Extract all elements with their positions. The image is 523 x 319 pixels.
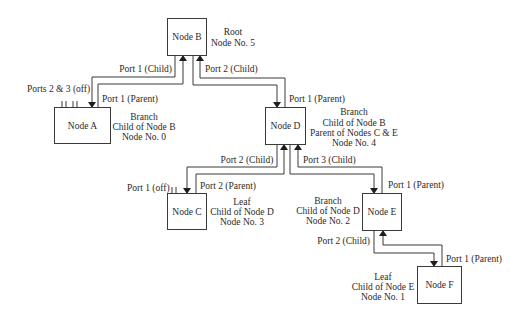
node-a-info: Branch Child of Node B Node No. 0	[112, 112, 175, 142]
node-d[interactable]: Node D	[266, 108, 306, 145]
connection-b-d	[193, 55, 285, 108]
node-c-label: Node C	[172, 207, 201, 217]
svg-text:Leaf: Leaf	[233, 197, 251, 207]
svg-text:Branch: Branch	[130, 112, 158, 122]
svg-text:Branch: Branch	[340, 107, 368, 117]
port-label-d-port2-child: Port 2 (Child)	[221, 155, 274, 166]
node-e[interactable]: Node E	[363, 194, 402, 231]
svg-text:Node No. 0: Node No. 0	[122, 132, 166, 142]
port-label-b-port2-child: Port 2 (Child)	[205, 64, 258, 75]
node-d-info: Branch Child of Node B Parent of Nodes C…	[310, 107, 398, 148]
port-label-c-port2-parent: Port 2 (Parent)	[200, 181, 256, 192]
port-label-d-port1-parent: Port 1 (Parent)	[289, 94, 345, 105]
node-a-label: Node A	[68, 121, 97, 131]
port-label-a-port1-parent: Port 1 (Parent)	[102, 94, 158, 105]
port-label-c-port1-off: Port 1 (off)	[127, 183, 170, 194]
connection-d-e	[290, 144, 382, 194]
node-c[interactable]: Node C	[168, 194, 207, 230]
wire-b-to-d	[193, 55, 277, 103]
port-label-a-ports-off: Ports 2 & 3 (off)	[27, 84, 90, 95]
node-f-info: Leaf Child of Node E Node No. 1	[352, 272, 415, 302]
svg-text:Branch: Branch	[314, 196, 342, 206]
svg-text:Child of Node E: Child of Node E	[352, 282, 415, 292]
node-c-off-port	[172, 187, 176, 193]
svg-text:Node No. 5: Node No. 5	[211, 38, 255, 48]
svg-text:Leaf: Leaf	[374, 272, 392, 282]
node-e-info: Branch Child of Node D Node No. 2	[296, 196, 360, 226]
node-a[interactable]: Node A	[55, 108, 111, 144]
svg-text:Child of Node D: Child of Node D	[210, 207, 274, 217]
node-b-info: Root Node No. 5	[211, 27, 255, 48]
svg-text:Child of Node B: Child of Node B	[112, 122, 175, 132]
node-c-info: Leaf Child of Node D Node No. 3	[210, 197, 274, 227]
svg-text:Root: Root	[224, 27, 243, 37]
node-d-label: Node D	[271, 121, 301, 131]
connection-e-f	[374, 230, 442, 267]
node-e-label: Node E	[368, 207, 397, 217]
svg-text:Child of Node D: Child of Node D	[296, 206, 360, 216]
port-label-e-port1-parent: Port 1 (Parent)	[388, 180, 444, 191]
node-b[interactable]: Node B	[168, 19, 207, 56]
port-label-f-port1-parent: Port 1 (Parent)	[446, 254, 502, 265]
svg-text:Node No. 3: Node No. 3	[220, 217, 264, 227]
port-label-e-port2-child: Port 2 (Child)	[317, 236, 370, 247]
tree-topology-diagram: Node B Node A Node D Node C Node E Node …	[0, 0, 523, 319]
port-label-b-port1-child: Port 1 (Child)	[119, 64, 172, 75]
svg-text:Node No. 1: Node No. 1	[361, 292, 405, 302]
port-label-d-port3-child: Port 3 (Child)	[303, 155, 356, 166]
node-f[interactable]: Node F	[418, 267, 462, 304]
node-a-off-ports	[62, 101, 77, 107]
svg-text:Node No. 2: Node No. 2	[306, 216, 350, 226]
node-b-label: Node B	[172, 32, 201, 42]
node-f-label: Node F	[425, 280, 453, 290]
svg-text:Parent of Nodes C & E: Parent of Nodes C & E	[310, 128, 398, 138]
svg-text:Node No. 4: Node No. 4	[332, 138, 376, 148]
svg-text:Child of Node B: Child of Node B	[322, 118, 385, 128]
